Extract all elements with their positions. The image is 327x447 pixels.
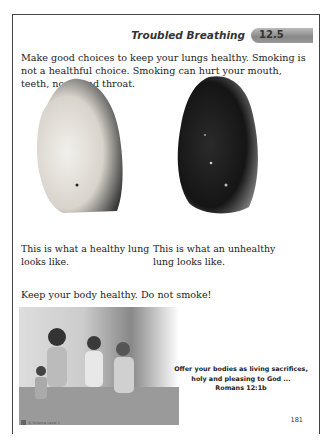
lesson-badge: 12.5: [251, 28, 313, 43]
verse-reference: Romans 12:1b: [171, 384, 311, 394]
lesson-number: 12.5: [259, 29, 284, 40]
healthy-lung-image: [33, 77, 125, 215]
verse-line-1: Offer your bodies as living sacrifices,: [171, 365, 311, 375]
copyright-text: © Science Level 1: [28, 421, 60, 425]
copyright-footer: © Science Level 1: [21, 420, 60, 425]
textbook-page: Troubled Breathing 12.5 Make good choice…: [12, 14, 320, 434]
healthy-lung-caption: This is what a healthy lung looks like.: [21, 243, 151, 268]
publisher-logo-icon: [21, 420, 26, 425]
closing-statement: Keep your body healthy. Do not smoke!: [21, 289, 211, 300]
unhealthy-lung-image: [171, 75, 261, 215]
family-running-photo: [19, 307, 179, 425]
unhealthy-lung-caption: This is what an unhealthy lung looks lik…: [153, 243, 283, 268]
page-title: Troubled Breathing: [131, 29, 245, 41]
verse-line-2: holy and pleasing to God ...: [171, 375, 311, 385]
scripture-verse: Offer your bodies as living sacrifices, …: [171, 365, 311, 394]
page-header: Troubled Breathing 12.5: [131, 27, 313, 43]
page-number: 181: [291, 416, 303, 424]
